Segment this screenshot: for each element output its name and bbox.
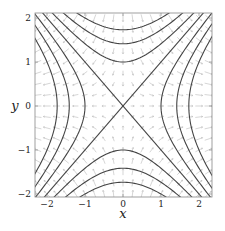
field-arrow [150, 26, 153, 33]
field-arrow [44, 49, 51, 53]
field-arrow [93, 14, 96, 21]
field-arrow [205, 159, 212, 163]
x-tick-label: −2 [40, 199, 53, 209]
field-arrow [186, 159, 192, 163]
y-tick-label: 0 [25, 101, 31, 111]
field-arrow [168, 37, 173, 43]
field-arrow [63, 159, 69, 164]
field-arrow [186, 72, 193, 75]
field-arrow [53, 138, 60, 141]
field-arrow [150, 148, 153, 153]
field-arrow [195, 72, 202, 75]
x-tick-label: 1 [158, 199, 164, 209]
x-tick-label: −1 [78, 199, 91, 209]
field-arrow [93, 60, 96, 65]
field-arrow [73, 26, 77, 32]
y-tick-label: 1 [25, 57, 31, 67]
field-arrow [83, 71, 88, 74]
contour-plot: −2−1012 −2−1012 x y [0, 0, 225, 231]
field-arrow [53, 159, 59, 163]
field-arrow [150, 169, 153, 175]
field-arrow [205, 49, 212, 53]
field-arrow [159, 71, 164, 74]
field-arrow [177, 72, 183, 75]
field-arrow [63, 138, 69, 141]
field-arrow [159, 48, 163, 53]
field-arrow [53, 49, 59, 53]
field-arrow [73, 37, 78, 43]
field-arrow [177, 159, 183, 164]
field-arrow [63, 49, 69, 54]
x-tick-label: 2 [196, 199, 202, 209]
y-tick-label: 2 [25, 13, 31, 23]
field-arrow [93, 180, 96, 187]
field-arrow [168, 169, 173, 175]
field-arrow [73, 191, 77, 198]
field-arrow [53, 72, 60, 75]
field-arrow [186, 49, 192, 53]
y-axis-label: y [10, 98, 19, 113]
y-tick-label: −2 [18, 189, 31, 199]
field-arrow [168, 191, 172, 198]
field-arrow [150, 14, 153, 21]
y-tick-label: −1 [18, 145, 31, 155]
field-arrow [205, 72, 213, 75]
field-arrow [83, 158, 87, 163]
field-arrow [177, 49, 183, 54]
field-arrow [196, 49, 203, 53]
field-arrow [168, 60, 173, 64]
field-arrow [150, 190, 153, 197]
field-arrow [150, 60, 153, 65]
field-arrow [168, 180, 172, 186]
field-arrow [196, 159, 203, 163]
field-arrow [186, 138, 193, 141]
field-arrow [43, 138, 50, 141]
field-arrow [44, 159, 51, 163]
field-arrow [73, 148, 78, 152]
field-arrow [168, 148, 173, 152]
field-arrow [43, 72, 50, 75]
field-arrow [205, 138, 213, 141]
field-arrow [93, 37, 96, 43]
field-arrow [159, 137, 164, 140]
field-arrow [93, 169, 96, 175]
x-axis-label: x [119, 206, 127, 221]
field-arrow [63, 72, 69, 75]
field-arrow [150, 180, 153, 187]
field-arrow [93, 148, 96, 153]
field-arrow [195, 138, 202, 141]
field-arrow [73, 15, 77, 22]
field-arrow [168, 26, 172, 32]
field-arrow [83, 48, 87, 53]
field-arrow [93, 190, 96, 197]
field-arrow [73, 180, 77, 186]
field-arrow [73, 169, 78, 175]
field-arrow [93, 26, 96, 33]
field-arrow [159, 158, 163, 163]
field-arrow [83, 137, 88, 140]
field-arrow [177, 138, 183, 141]
field-arrow [168, 15, 172, 22]
field-arrow [73, 60, 78, 64]
field-arrow [150, 37, 153, 43]
